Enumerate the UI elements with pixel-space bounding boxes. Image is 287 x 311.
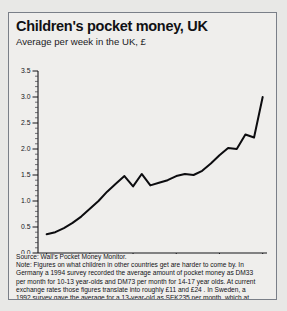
y-tick-label: 2.0 xyxy=(21,145,31,152)
y-tick-label: 1.5 xyxy=(21,171,31,178)
y-tick-label: 1.0 xyxy=(21,197,31,204)
note-line-3: per month for 10-13 year-olds and DM73 p… xyxy=(16,278,272,286)
note-line-1: Note: Figures on what children in other … xyxy=(16,261,272,269)
y-tick-label: 3.5 xyxy=(21,67,31,74)
page-title: Children's pocket money, UK xyxy=(16,18,208,34)
chart-subtitle: Average per week in the UK, £ xyxy=(16,36,146,47)
note-line-2: Germany a 1994 survey recorded the avera… xyxy=(16,269,272,277)
y-axis: 0.00.51.01.52.02.53.03.5 xyxy=(21,67,38,254)
note-line-5: 1992 survey gave the average for a 13-ye… xyxy=(16,294,272,300)
data-line xyxy=(47,97,263,234)
note-line-4: exchange rates those figures translate i… xyxy=(16,286,272,294)
y-tick-label: 2.5 xyxy=(21,119,31,126)
data-series-group xyxy=(47,97,263,234)
y-tick-label: 3.0 xyxy=(21,93,31,100)
chart-figure: Children's pocket money, UK Average per … xyxy=(8,12,277,300)
y-tick-label: 0.5 xyxy=(21,223,31,230)
line-chart-plot: 0.00.51.01.52.02.53.03.5 197519801985199… xyxy=(9,49,276,254)
source-line: Source: Wall's Pocket Money Monitor. xyxy=(16,253,272,261)
chart-notes: Source: Wall's Pocket Money Monitor. Not… xyxy=(16,253,272,300)
